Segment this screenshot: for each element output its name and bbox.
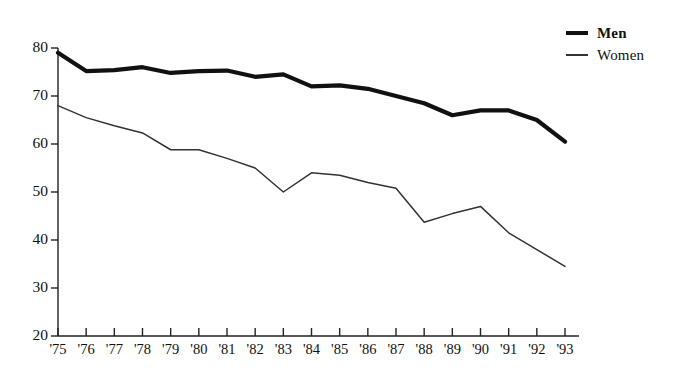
x-tick-label: '76 — [71, 341, 101, 358]
legend-label-women: Women — [597, 47, 644, 64]
x-tick-label: '92 — [522, 341, 552, 358]
legend-item-men[interactable]: Men — [566, 22, 686, 44]
x-tick-label: '93 — [550, 341, 580, 358]
x-tick-label: '75 — [43, 341, 73, 358]
legend-item-women[interactable]: Women — [566, 44, 686, 66]
x-tick-label: '77 — [99, 341, 129, 358]
series-line-women — [58, 106, 565, 267]
y-tick-label: 40 — [14, 230, 48, 248]
y-tick-label: 80 — [14, 38, 48, 56]
x-tick-label: '90 — [466, 341, 496, 358]
x-tick-label: '89 — [437, 341, 467, 358]
axes — [51, 48, 579, 336]
y-tick-label: 60 — [14, 134, 48, 152]
x-tick-label: '80 — [184, 341, 214, 358]
legend-line-thin-icon — [566, 54, 588, 55]
x-tick-label: '82 — [240, 341, 270, 358]
x-tick-label: '83 — [268, 341, 298, 358]
x-tick-label: '87 — [381, 341, 411, 358]
x-tick-label: '85 — [325, 341, 355, 358]
y-tick-label: 70 — [14, 86, 48, 104]
x-tick-label: '86 — [353, 341, 383, 358]
x-tick-label: '78 — [128, 341, 158, 358]
line-chart: 80706050403020 '75'76'77'78'79'80'81'82'… — [0, 0, 692, 383]
legend-label-men: Men — [597, 25, 627, 42]
series-line-men — [58, 53, 565, 142]
legend-line-thick-icon — [566, 31, 588, 35]
y-tick-label: 30 — [14, 278, 48, 296]
chart-legend: Men Women — [566, 22, 686, 66]
y-tick-label: 50 — [14, 182, 48, 200]
x-tick-label: '88 — [409, 341, 439, 358]
x-tick-label: '79 — [156, 341, 186, 358]
x-tick-label: '81 — [212, 341, 242, 358]
x-tick-label: '84 — [297, 341, 327, 358]
x-tick-label: '91 — [494, 341, 524, 358]
data-series — [58, 53, 565, 267]
